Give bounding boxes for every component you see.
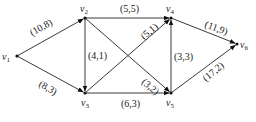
node-label-v2: v2 [80,3,88,16]
edge-label-v1-v3: (8,3) [37,78,60,98]
edge-label-v3-v4: (5,1) [138,21,160,43]
edge-label-v1-v2: (10,8) [28,16,55,38]
node-v6 [235,42,238,45]
network-flow-graph: v1v2v3v4v5v6 (10,8)(8,3)(4,1)(5,5)(3,2)(… [0,0,256,122]
node-label-v6: v6 [240,39,248,52]
edge-label-v5-v6: (17,2) [200,60,226,85]
node-v1 [15,54,18,57]
edge-label-v2-v5: (3,2) [139,76,161,98]
edge-label-v4-v6: (11,9) [203,19,229,38]
node-v2 [83,16,86,19]
edge-label-v2-v3: (4,1) [88,50,107,62]
edge-label-v5-v4: (3,3) [174,51,193,63]
node-v4 [169,16,172,19]
edge-label-v3-v5: (6,3) [121,98,140,110]
node-v3 [83,91,86,94]
node-label-v5: v5 [166,97,174,110]
node-v5 [169,91,172,94]
node-label-v1: v1 [2,51,10,64]
edge-label-v2-v4: (5,5) [120,3,139,15]
node-label-v4: v4 [166,3,174,16]
node-label-v3: v3 [81,97,89,110]
nodes-group: v1v2v3v4v5v6 [2,3,248,110]
